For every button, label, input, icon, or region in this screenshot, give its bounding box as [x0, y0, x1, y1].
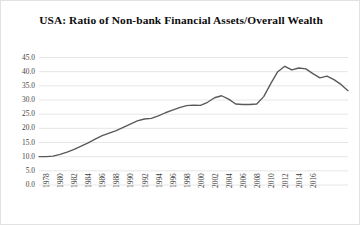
x-axis-tick-label: 1990: [126, 173, 135, 188]
x-axis-tick-label: 2008: [253, 173, 262, 188]
x-axis-tick-label: 2000: [197, 173, 206, 188]
x-axis-tick-label: 2012: [281, 173, 290, 188]
x-axis-tick-label: 1998: [183, 173, 192, 188]
y-axis-tick-label: 25.0: [9, 110, 35, 118]
x-axis-tick-label: 2002: [211, 173, 220, 188]
y-axis-tick-label: 20.0: [9, 124, 35, 132]
x-axis-tick-label: 1978: [42, 173, 51, 188]
x-axis-tick-label: 1980: [56, 173, 65, 188]
x-axis-tick-label: 1982: [70, 173, 79, 188]
y-axis-tick-label: 40.0: [9, 68, 35, 76]
x-axis-tick-label: 1996: [169, 173, 178, 188]
chart-plot-svg: [1, 1, 360, 225]
x-axis-tick-label: 2014: [295, 173, 304, 188]
x-axis-tick-label: 2010: [267, 173, 276, 188]
x-axis-tick-label: 1984: [84, 173, 93, 188]
y-axis-tick-label: 5.0: [9, 167, 35, 175]
y-axis-tick-label: 10.0: [9, 153, 35, 161]
plot-area: 0.05.010.015.020.025.030.035.040.045.0 1…: [1, 1, 360, 225]
y-axis-tick-label: 15.0: [9, 139, 35, 147]
x-axis-tick-label: 1994: [155, 173, 164, 188]
chart-container: USA: Ratio of Non-bank Financial Assets/…: [0, 0, 360, 225]
x-axis-tick-label: 2006: [239, 173, 248, 188]
x-axis-tick-label: 2016: [309, 173, 318, 188]
x-axis-tick-label: 1986: [98, 173, 107, 188]
x-axis-tick-label: 1988: [112, 173, 121, 188]
x-axis-tick-label: 1992: [141, 173, 150, 188]
y-axis-tick-label: 45.0: [9, 54, 35, 62]
y-axis-tick-label: 0.0: [9, 181, 35, 189]
gridlines: [39, 58, 348, 186]
y-axis-tick-label: 35.0: [9, 82, 35, 90]
x-axis-tick-label: 2004: [225, 173, 234, 188]
data-series-line: [39, 66, 348, 156]
y-axis-tick-label: 30.0: [9, 96, 35, 104]
